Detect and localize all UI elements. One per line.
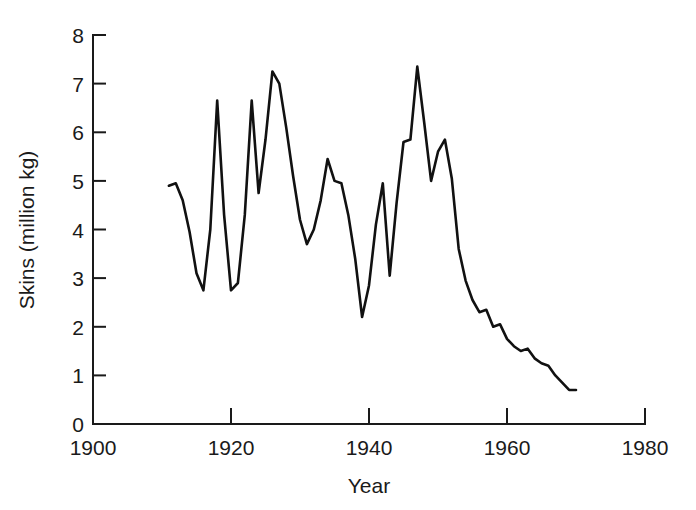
x-tick-label-1960: 1960 bbox=[484, 436, 531, 459]
x-axis-ticks bbox=[231, 408, 645, 424]
y-tick-label-3: 3 bbox=[72, 267, 84, 290]
x-tick-label-1940: 1940 bbox=[346, 436, 393, 459]
y-tick-label-4: 4 bbox=[72, 219, 84, 242]
y-axis-title: Skins (million kg) bbox=[15, 151, 38, 310]
y-axis-ticks bbox=[93, 35, 106, 375]
y-axis-tick-labels: 8 7 6 5 4 3 2 1 0 bbox=[72, 24, 84, 436]
chart-figure: 8 7 6 5 4 3 2 1 0 1900 1920 1940 1960 19… bbox=[0, 0, 696, 510]
y-tick-label-6: 6 bbox=[72, 121, 84, 144]
data-series-skins bbox=[169, 67, 576, 390]
y-tick-label-2: 2 bbox=[72, 316, 84, 339]
y-tick-label-8: 8 bbox=[72, 24, 84, 47]
y-tick-label-1: 1 bbox=[72, 364, 84, 387]
y-tick-label-7: 7 bbox=[72, 73, 84, 96]
line-chart: 8 7 6 5 4 3 2 1 0 1900 1920 1940 1960 19… bbox=[0, 0, 696, 510]
y-tick-label-5: 5 bbox=[72, 170, 84, 193]
y-tick-label-0: 0 bbox=[72, 413, 84, 436]
x-tick-label-1920: 1920 bbox=[208, 436, 255, 459]
x-axis-title: Year bbox=[348, 474, 390, 497]
x-tick-label-1980: 1980 bbox=[622, 436, 669, 459]
x-tick-label-1900: 1900 bbox=[70, 436, 117, 459]
x-axis-tick-labels: 1900 1920 1940 1960 1980 bbox=[70, 436, 669, 459]
